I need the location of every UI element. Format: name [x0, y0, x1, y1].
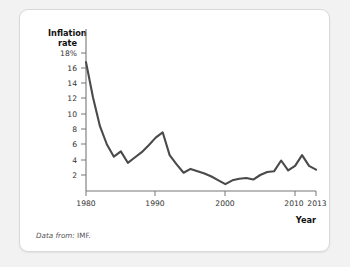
- x-tick-label-2013: 2013: [307, 199, 326, 208]
- source-note: Data from: IMF.: [36, 231, 91, 240]
- y-tick-label-2: 2: [72, 171, 77, 180]
- inflation-line-chart-svg: Inflation rate 18%: [20, 10, 331, 253]
- y-tick-label-6: 6: [72, 140, 77, 149]
- source-note-value: IMF.: [77, 231, 91, 240]
- y-tick-label-18: 18%: [60, 49, 77, 58]
- inflation-rate-line: [86, 62, 316, 184]
- y-tick-label-4: 4: [72, 156, 77, 165]
- page-background: Inflation rate 18%: [0, 0, 350, 267]
- y-tick-label-8: 8: [72, 125, 77, 134]
- x-axis-ticks: [86, 191, 316, 196]
- chart-plot-area: Inflation rate 18%: [20, 10, 331, 253]
- y-tick-label-12: 12: [67, 94, 77, 103]
- x-tick-label-1980: 1980: [76, 199, 95, 208]
- y-axis-label-line2: rate: [58, 38, 77, 48]
- y-axis-label-line1: Inflation: [48, 28, 87, 38]
- y-axis-ticks: [81, 53, 86, 175]
- x-axis-label: Year: [295, 215, 317, 225]
- x-tick-label-2000: 2000: [215, 199, 234, 208]
- x-tick-label-1990: 1990: [145, 199, 164, 208]
- source-note-label: Data from:: [36, 231, 75, 240]
- y-tick-label-14: 14: [67, 79, 77, 88]
- y-tick-label-10: 10: [67, 110, 77, 119]
- figure-card: Inflation rate 18%: [19, 9, 330, 252]
- y-tick-label-16: 16: [67, 64, 77, 73]
- x-tick-label-2010: 2010: [284, 199, 303, 208]
